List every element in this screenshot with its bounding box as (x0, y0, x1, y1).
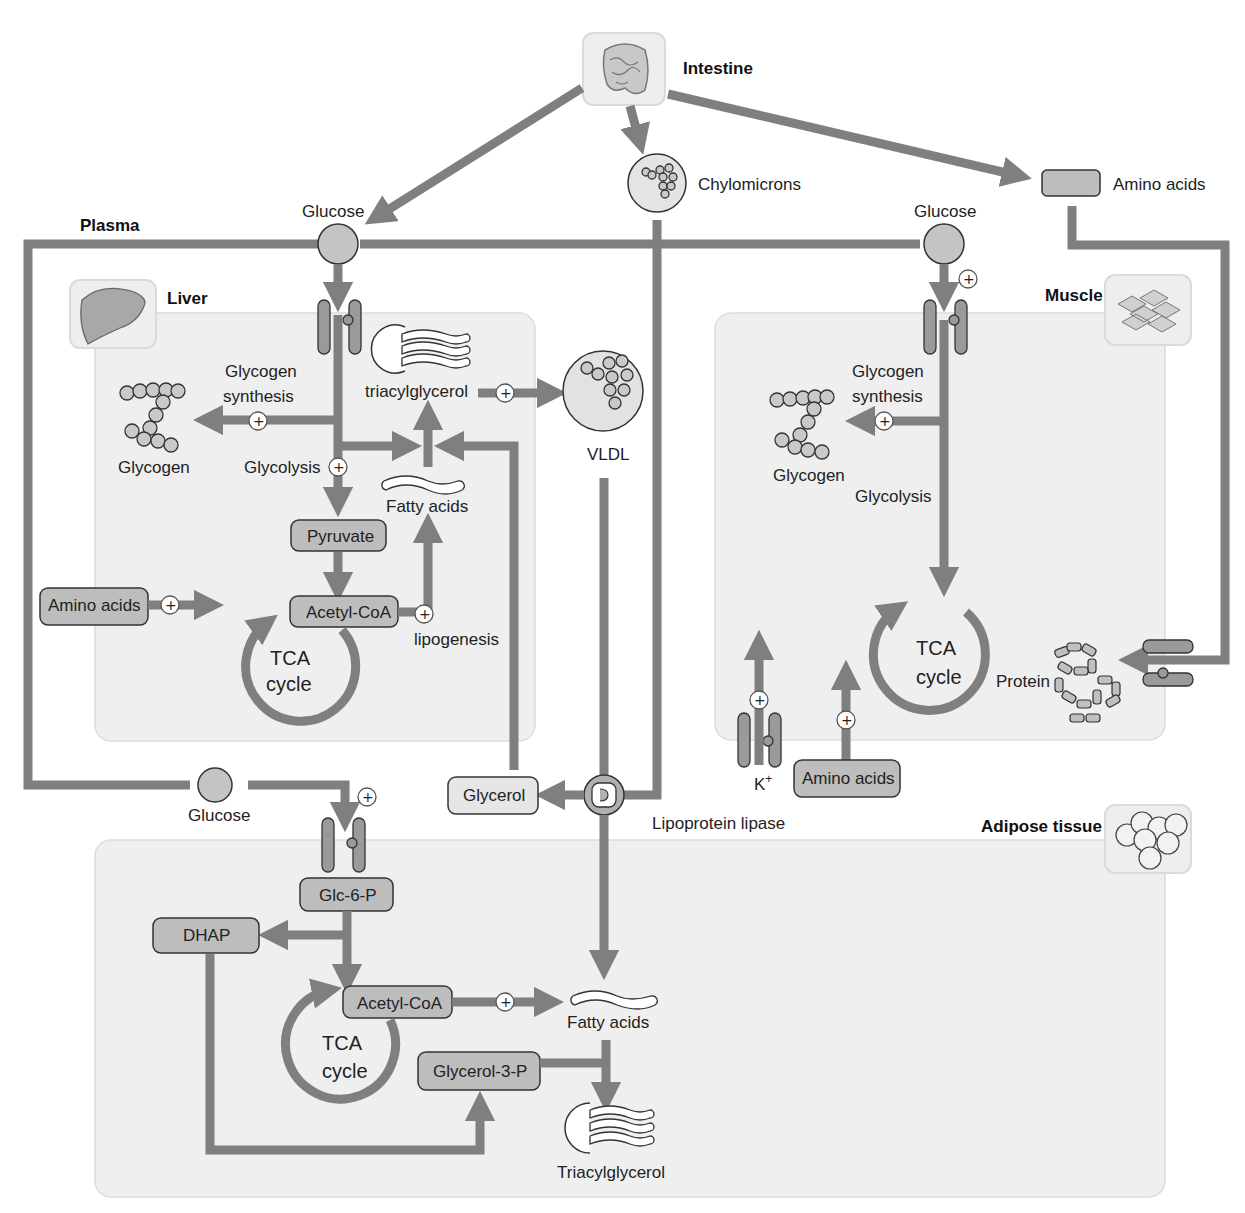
adipose-triacylglycerol-label: Triacylglycerol (557, 1163, 665, 1182)
svg-text:+: + (500, 994, 512, 1010)
plasma-label: Plasma (80, 216, 140, 235)
adipose-tca-label-2: cycle (322, 1060, 368, 1082)
adipose-acetylcoa-box: Acetyl-CoA (343, 986, 452, 1018)
glucose-right-label: Glucose (914, 202, 976, 221)
liver-tca-label-1: TCA (270, 647, 311, 669)
svg-text:+: + (362, 789, 374, 805)
muscle-glycogen-label: Glycogen (773, 466, 845, 485)
plus-activation-icon: + (496, 384, 514, 402)
svg-text:+: + (754, 692, 766, 708)
plus-activation-icon: + (496, 993, 514, 1011)
liver-glycogen-synthesis-label-1: Glycogen (225, 362, 297, 381)
lipoprotein-lipase-icon (584, 775, 624, 815)
chylomicron-node: Chylomicrons (628, 154, 801, 212)
muscle-glycolysis-label: Glycolysis (855, 487, 932, 506)
liver-glycogen-synthesis-label-2: synthesis (223, 387, 294, 406)
protein-label: Protein (996, 672, 1050, 691)
svg-text:Glycerol: Glycerol (463, 786, 525, 805)
liver-acetylcoa-box: Acetyl-CoA (290, 596, 398, 627)
potassium-label: K+ (754, 772, 772, 794)
liver-fatty-acids-label: Fatty acids (386, 497, 468, 516)
vldl-node: VLDL (563, 351, 643, 464)
plus-activation-icon: + (959, 270, 977, 288)
liver-label: Liver (167, 289, 208, 308)
svg-text:Amino acids: Amino acids (48, 596, 141, 615)
plus-activation-icon: + (875, 412, 893, 430)
glucose-left-label: Glucose (302, 202, 364, 221)
chylomicrons-label: Chylomicrons (698, 175, 801, 194)
intestine-to-amino-acids-arrow (668, 94, 1020, 176)
vldl-label: VLDL (587, 445, 630, 464)
intestine-node: Intestine (583, 33, 753, 105)
adipose-fatty-acids-label: Fatty acids (567, 1013, 649, 1032)
lipoprotein-lipase-label: Lipoprotein lipase (652, 814, 785, 833)
glucose-plasma-right: Glucose (914, 202, 976, 264)
intestine-to-glucose-arrow (375, 88, 582, 218)
chylomicron-to-lipase-line (607, 220, 657, 795)
svg-text:+: + (333, 459, 345, 475)
muscle-label: Muscle (1045, 286, 1103, 305)
muscle-tca-label-2: cycle (916, 666, 962, 688)
svg-text:Glc-6-P: Glc-6-P (319, 886, 377, 905)
svg-text:Acetyl-CoA: Acetyl-CoA (306, 603, 392, 622)
glucose-lower-label: Glucose (188, 806, 250, 825)
adipose-label: Adipose tissue (981, 817, 1102, 836)
plus-activation-icon: + (358, 788, 376, 806)
plus-activation-icon: + (415, 605, 433, 623)
glycerol-box: Glycerol (448, 777, 538, 814)
svg-text:+: + (963, 271, 975, 287)
muscle-tca-label-1: TCA (916, 637, 957, 659)
intestine-to-chylomicrons-arrow (630, 106, 640, 143)
svg-text:Glycerol-3-P: Glycerol-3-P (433, 1062, 527, 1081)
glucose-plasma-lower: Glucose (188, 768, 250, 825)
intestine-icon-glyph (603, 44, 648, 94)
svg-text:DHAP: DHAP (183, 926, 230, 945)
intestine-label: Intestine (683, 59, 753, 78)
glycerol3p-box: Glycerol-3-P (418, 1052, 540, 1090)
muscle-glycogen-synthesis-label-1: Glycogen (852, 362, 924, 381)
chylomicron-icon (628, 154, 686, 212)
metabolic-pathway-diagram: Intestine Chylomicrons Amino acids Plasm… (0, 0, 1245, 1213)
adipose-tca-label-1: TCA (322, 1032, 363, 1054)
liver-amino-acids-box: Amino acids (40, 588, 148, 625)
muscle-amino-acids-box: Amino acids (794, 760, 900, 797)
svg-text:+: + (841, 712, 853, 728)
plus-activation-icon: + (329, 458, 347, 476)
amino-acids-plasma-label: Amino acids (1113, 175, 1206, 194)
lipogenesis-label: lipogenesis (414, 630, 499, 649)
liver-glycolysis-label: Glycolysis (244, 458, 321, 477)
liver-triacylglycerol-label: triacylglycerol (365, 382, 468, 401)
svg-text:+: + (419, 606, 431, 622)
svg-text:+: + (253, 413, 265, 429)
svg-text:+: + (165, 597, 177, 613)
svg-text:Pyruvate: Pyruvate (307, 527, 374, 546)
glc6p-box: Glc-6-P (300, 878, 393, 911)
liver-glycogen-label: Glycogen (118, 458, 190, 477)
svg-text:Acetyl-CoA: Acetyl-CoA (357, 994, 443, 1013)
plus-activation-icon: + (750, 691, 768, 709)
amino-acids-plasma-node: Amino acids (1042, 170, 1206, 196)
plus-activation-icon: + (161, 596, 179, 614)
pyruvate-box: Pyruvate (291, 520, 386, 551)
svg-text:Amino acids: Amino acids (802, 769, 895, 788)
plus-activation-icon: + (837, 711, 855, 729)
plus-activation-icon: + (249, 412, 267, 430)
muscle-glycogen-synthesis-label-2: synthesis (852, 387, 923, 406)
svg-text:+: + (500, 385, 512, 401)
svg-text:+: + (879, 413, 891, 429)
dhap-box: DHAP (153, 918, 259, 953)
glucose-plasma-left: Glucose (302, 202, 364, 264)
liver-tca-label-2: cycle (266, 673, 312, 695)
